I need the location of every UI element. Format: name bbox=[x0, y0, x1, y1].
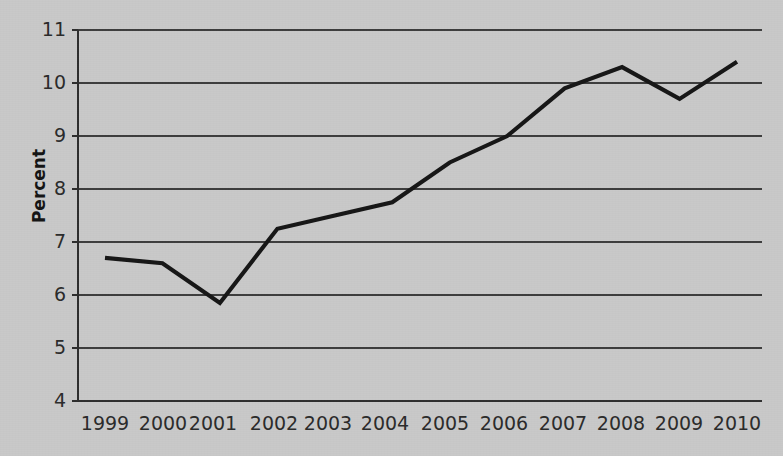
x-tick-label-2009: 2009 bbox=[655, 412, 703, 434]
x-tick-label-2002: 2002 bbox=[250, 412, 298, 434]
chart-background bbox=[0, 0, 783, 456]
x-tick-label-2008: 2008 bbox=[597, 412, 645, 434]
x-tick-label-2003: 2003 bbox=[304, 412, 352, 434]
y-tick-label-7: 7 bbox=[54, 230, 66, 252]
y-tick-label-8: 8 bbox=[54, 177, 66, 199]
x-tick-label-2001: 2001 bbox=[189, 412, 237, 434]
y-tick-label-9: 9 bbox=[54, 124, 66, 146]
y-tick-label-10: 10 bbox=[42, 71, 66, 93]
x-tick-label-2005: 2005 bbox=[421, 412, 469, 434]
x-tick-label-2006: 2006 bbox=[480, 412, 528, 434]
x-tick-label-2007: 2007 bbox=[539, 412, 587, 434]
x-tick-label-2010: 2010 bbox=[713, 412, 761, 434]
x-tick-label-1999: 1999 bbox=[81, 412, 129, 434]
x-tick-label-2000: 2000 bbox=[139, 412, 187, 434]
y-axis-title: Percent bbox=[29, 149, 49, 223]
y-tick-label-6: 6 bbox=[54, 283, 66, 305]
y-tick-label-4: 4 bbox=[54, 389, 66, 411]
y-tick-label-5: 5 bbox=[54, 336, 66, 358]
chart-canvas: Percent 11 10 bbox=[0, 0, 783, 456]
x-axis-tick-labels: 1999 2000 2001 2002 2003 2004 2005 2006 … bbox=[81, 412, 761, 434]
x-tick-label-2004: 2004 bbox=[361, 412, 409, 434]
line-chart: Percent 11 10 bbox=[0, 0, 783, 456]
y-tick-label-11: 11 bbox=[42, 18, 66, 40]
